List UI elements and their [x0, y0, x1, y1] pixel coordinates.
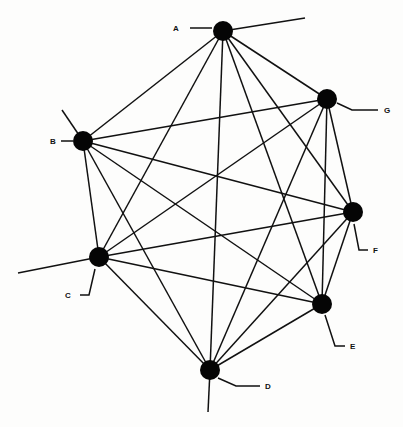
edge-e-f [322, 212, 353, 304]
dangling-edges-layer [18, 18, 305, 412]
node-label-b: B [50, 137, 56, 146]
dangling-edge-c [18, 257, 99, 273]
node-label-d: D [265, 382, 271, 391]
label-leader-g [337, 103, 378, 110]
node-c [89, 247, 109, 267]
node-e [312, 294, 332, 314]
node-label-c: C [65, 291, 71, 300]
node-g [317, 89, 337, 109]
edge-c-f [99, 212, 353, 257]
label-leader-d [218, 378, 260, 386]
edge-a-f [223, 31, 353, 212]
node-b [73, 131, 93, 151]
edge-d-f [210, 212, 353, 370]
label-leader-e [325, 315, 345, 346]
edge-a-b [83, 31, 223, 141]
node-f [343, 202, 363, 222]
edge-d-e [210, 304, 322, 370]
edge-c-d [99, 257, 210, 370]
label-leaders-layer [61, 28, 378, 386]
edge-b-c [83, 141, 99, 257]
node-label-f: F [373, 246, 378, 255]
node-d [200, 360, 220, 380]
edges-layer [83, 31, 353, 370]
edge-b-g [83, 99, 327, 141]
label-leader-c [80, 269, 95, 295]
node-label-a: A [173, 24, 179, 33]
node-label-e: E [350, 342, 356, 351]
node-label-g: G [384, 106, 390, 115]
complete-graph-diagram: ABCDEFG [0, 0, 403, 427]
labels-layer: ABCDEFG [50, 24, 390, 391]
edge-a-g [223, 31, 327, 99]
label-leader-f [354, 224, 368, 250]
edge-e-g [322, 99, 327, 304]
edge-a-d [210, 31, 223, 370]
node-a [213, 21, 233, 41]
dangling-edge-a [223, 18, 305, 31]
